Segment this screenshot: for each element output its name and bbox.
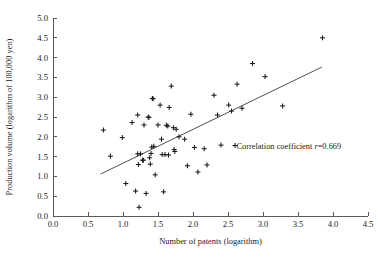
data-point xyxy=(120,135,125,140)
y-axis-tick-labels: 0.00.51.01.52.02.53.03.54.04.55.0 xyxy=(37,13,48,221)
data-point xyxy=(161,189,166,194)
data-point xyxy=(235,82,240,87)
data-point xyxy=(185,163,190,168)
data-point xyxy=(141,158,146,163)
data-point xyxy=(137,205,142,210)
x-tick-label: 1.5 xyxy=(153,219,164,229)
y-tick-label: 5.0 xyxy=(37,13,48,23)
data-point xyxy=(280,103,285,108)
scatter-plot-figure: 0.00.51.01.52.02.53.03.54.04.5 0.00.51.0… xyxy=(0,0,378,266)
data-point xyxy=(167,105,172,110)
scatter-data-points xyxy=(101,35,325,209)
correlation-annotation: Correlation coefficient r=0.669 xyxy=(236,142,341,151)
data-point xyxy=(212,93,217,98)
y-tick-label: 3.0 xyxy=(37,92,48,102)
x-tick-label: 2.0 xyxy=(188,219,199,229)
y-axis-title: Production volume (logarithm of 100,000 … xyxy=(5,38,14,195)
x-tick-label: 4.5 xyxy=(363,219,374,229)
data-point xyxy=(192,145,197,150)
data-point xyxy=(135,113,140,118)
data-point xyxy=(147,155,152,160)
y-tick-label: 1.0 xyxy=(37,171,48,181)
data-point xyxy=(250,61,255,66)
data-point xyxy=(156,122,161,127)
x-axis-title: Number of patents (logarithm) xyxy=(159,237,262,246)
data-point xyxy=(159,137,164,142)
x-axis-tick-marks xyxy=(53,212,368,216)
data-point xyxy=(166,153,171,158)
data-point xyxy=(144,191,149,196)
y-tick-label: 1.5 xyxy=(37,152,48,162)
data-point xyxy=(136,162,141,167)
data-point xyxy=(202,146,207,151)
data-point xyxy=(130,120,135,125)
data-point xyxy=(182,137,187,142)
y-tick-label: 0.0 xyxy=(37,211,48,221)
data-point xyxy=(320,35,325,40)
data-point xyxy=(148,162,153,167)
y-tick-label: 4.5 xyxy=(37,33,48,43)
data-point xyxy=(123,181,128,186)
y-tick-label: 4.0 xyxy=(37,53,48,63)
data-point xyxy=(151,96,156,101)
x-tick-label: 1.0 xyxy=(118,219,129,229)
data-point xyxy=(195,170,200,175)
data-point xyxy=(229,109,234,114)
data-point xyxy=(169,84,174,89)
data-point xyxy=(101,128,106,133)
data-point xyxy=(205,162,210,167)
data-point xyxy=(133,189,138,194)
y-axis-tick-marks xyxy=(53,18,57,216)
x-tick-label: 0.0 xyxy=(48,219,59,229)
data-point xyxy=(142,122,147,127)
data-point xyxy=(146,115,151,120)
data-point xyxy=(188,112,193,117)
x-tick-label: 0.5 xyxy=(83,219,94,229)
y-tick-label: 3.5 xyxy=(37,72,48,82)
x-tick-label: 3.0 xyxy=(258,219,269,229)
y-tick-label: 2.5 xyxy=(37,112,48,122)
data-point xyxy=(149,151,154,156)
data-point xyxy=(153,172,158,177)
data-point xyxy=(108,154,113,159)
x-tick-label: 3.5 xyxy=(293,219,304,229)
regression-trendline xyxy=(101,67,322,174)
data-point xyxy=(158,103,163,108)
data-point xyxy=(263,74,268,79)
data-point xyxy=(219,143,224,148)
x-axis-tick-labels: 0.00.51.01.52.02.53.03.54.04.5 xyxy=(48,219,374,229)
x-tick-label: 2.5 xyxy=(223,219,234,229)
chart-canvas: 0.00.51.01.52.02.53.03.54.04.5 0.00.51.0… xyxy=(0,0,378,266)
x-tick-label: 4.0 xyxy=(328,219,339,229)
y-tick-label: 0.5 xyxy=(37,191,48,201)
y-tick-label: 2.0 xyxy=(37,132,48,142)
data-point xyxy=(226,103,231,108)
